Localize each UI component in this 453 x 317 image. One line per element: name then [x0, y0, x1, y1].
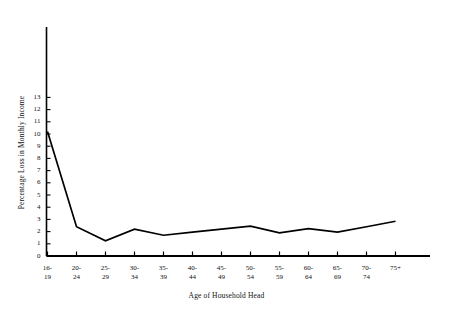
y-tick-label: 2: [27, 228, 41, 235]
y-tick-label: 4: [27, 204, 41, 211]
y-tick-label: 1: [27, 240, 41, 247]
y-tick-label: 3: [27, 216, 41, 223]
x-tick-label: 75+: [379, 264, 413, 273]
y-tick-label: 13: [27, 94, 41, 101]
y-tick-label: 12: [27, 106, 41, 113]
data-series-line: [48, 132, 396, 241]
y-tick-label: 0: [27, 253, 41, 260]
y-tick-label: 11: [27, 118, 41, 125]
y-axis-title: Percentage Loss in Monthly Income: [17, 88, 26, 218]
y-tick-label: 7: [27, 167, 41, 174]
y-tick-label: 9: [27, 143, 41, 150]
chart-figure: 012345678910111213 16- 1920- 2425- 2930-…: [0, 0, 453, 317]
x-axis-title: Age of Household Head: [0, 291, 453, 300]
y-tick-label: 5: [27, 192, 41, 199]
y-tick-label: 10: [27, 131, 41, 138]
y-tick-label: 8: [27, 155, 41, 162]
y-tick-label: 6: [27, 179, 41, 186]
